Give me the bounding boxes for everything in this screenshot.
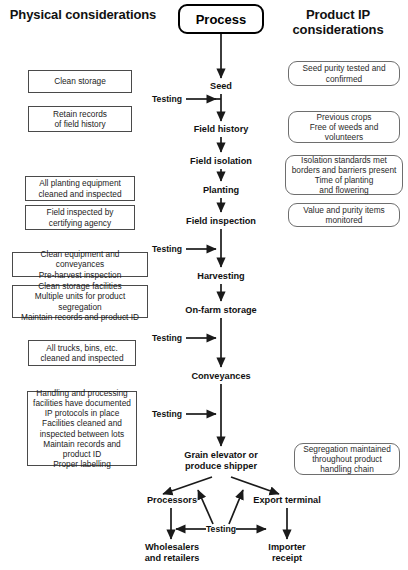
- flow-step-wholesalers-retailers: Wholesalers and retailers: [133, 542, 211, 564]
- process-title-box: Process: [178, 4, 264, 34]
- left-box-planting-equipment: All planting equipment cleaned and inspe…: [25, 176, 135, 201]
- flow-step-seed: Seed: [191, 81, 251, 92]
- flow-step-field-isolation: Field isolation: [178, 156, 264, 167]
- flow-step-field-history: Field history: [181, 124, 261, 135]
- testing-label-conveyances: Testing: [152, 333, 182, 343]
- left-box-all-trucks-bins: All trucks, bins, etc. cleaned and inspe…: [28, 340, 136, 366]
- flow-step-field-inspection: Field inspection: [175, 216, 267, 227]
- right-box-seed-purity: Seed purity tested and confirmed: [288, 61, 400, 86]
- left-box-handling-processing: Handling and processing facilities have …: [27, 391, 137, 466]
- flow-step-harvesting: Harvesting: [184, 271, 258, 282]
- right-box-previous-crops: Previous crops Free of weeds and volunte…: [288, 111, 400, 143]
- flowchart-canvas: Physical considerations Product IP consi…: [0, 0, 408, 570]
- testing-label-harvesting: Testing: [152, 244, 182, 254]
- right-box-value-purity: Value and purity items monitored: [288, 203, 400, 227]
- process-title-label: Process: [196, 12, 247, 27]
- flow-step-importer-receipt: Importer receipt: [256, 542, 318, 564]
- flow-step-planting: Planting: [186, 185, 256, 196]
- right-column-heading: Product IP considerations: [272, 8, 404, 38]
- flow-step-processors: Processors: [139, 495, 205, 506]
- left-box-retain-records: Retain records of field history: [28, 106, 132, 132]
- testing-label-distribution: Testing: [206, 524, 236, 534]
- flow-step-grain-elevator: Grain elevator or produce shipper: [168, 450, 274, 472]
- right-box-segregation-maintained: Segregation maintained throughout produc…: [294, 443, 400, 475]
- left-column-heading: Physical considerations: [8, 8, 158, 23]
- left-box-clean-storage-facilities: Clean storage facilities Multiple units …: [12, 285, 148, 318]
- right-box-isolation-standards: Isolation standards met borders and barr…: [285, 155, 403, 195]
- flow-step-conveyances: Conveyances: [181, 371, 261, 382]
- testing-label-seed: Testing: [152, 94, 182, 104]
- testing-label-grain-elevator: Testing: [152, 409, 182, 419]
- flow-step-on-farm-storage: On-farm storage: [176, 305, 266, 316]
- left-box-field-inspected: Field inspected by certifying agency: [25, 205, 135, 230]
- left-box-clean-storage: Clean storage: [28, 70, 132, 93]
- left-box-clean-equipment-conveyances: Clean equipment and conveyances Pre-harv…: [12, 252, 148, 277]
- flow-step-export-terminal: Export terminal: [247, 495, 327, 506]
